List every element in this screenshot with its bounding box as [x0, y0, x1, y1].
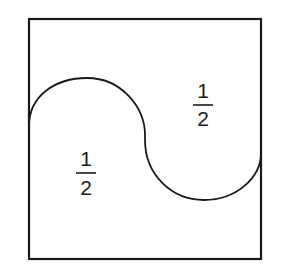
diagram-canvas: 1 2 1 2: [0, 0, 285, 274]
fraction-label-left: 1 2: [76, 147, 96, 199]
fraction-denominator: 2: [197, 107, 209, 130]
s-curve-divider: [29, 78, 261, 200]
fraction-denominator: 2: [80, 176, 92, 199]
fraction-numerator: 1: [80, 147, 92, 170]
fraction-label-right: 1 2: [193, 79, 213, 130]
fraction-numerator: 1: [197, 79, 209, 102]
